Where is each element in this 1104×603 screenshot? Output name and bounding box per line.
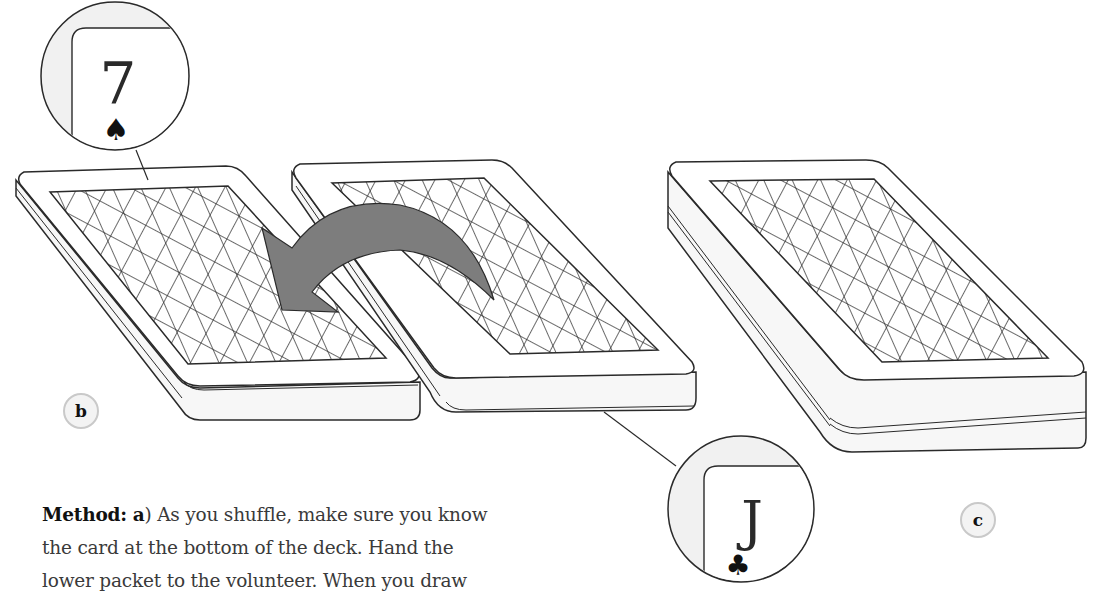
step-label-b: b [63, 393, 99, 429]
step-marker-a: a [133, 504, 145, 525]
club-icon: ♣ [725, 549, 750, 582]
packet-c [668, 160, 1086, 452]
card-rank-7: 7 [100, 50, 137, 118]
callout-jack-of-clubs: J ♣ [604, 412, 820, 600]
method-line-1-text: ) As you shuffle, make sure you know [144, 504, 487, 525]
step-label-c: c [960, 502, 996, 538]
method-text: Method: a) As you shuffle, make sure you… [42, 498, 602, 597]
callout-seven-of-spades: 7 ♠ [41, 2, 200, 180]
method-heading: Method: [42, 504, 127, 525]
method-line-2: the card at the bottom of the deck. Hand… [42, 531, 602, 564]
spade-icon: ♠ [103, 112, 130, 147]
method-line-1: Method: a) As you shuffle, make sure you… [42, 498, 602, 531]
method-line-3: lower packet to the volunteer. When you … [42, 564, 602, 597]
